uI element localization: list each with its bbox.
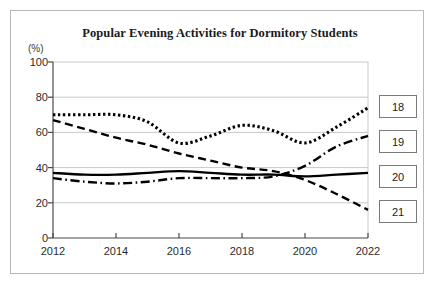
legend-item-18[interactable]: 18	[379, 95, 417, 118]
legend-label: 21	[392, 206, 404, 218]
legend-label: 20	[392, 171, 404, 183]
legend-item-21[interactable]: 21	[379, 200, 417, 223]
legend-label: 19	[392, 136, 404, 148]
plot-background	[53, 62, 368, 238]
plot-area	[0, 0, 442, 291]
legend-item-20[interactable]: 20	[379, 165, 417, 188]
y-axis-ticks	[48, 62, 53, 238]
chart-figure: Popular Evening Activities for Dormitory…	[0, 0, 442, 291]
legend-label: 18	[392, 101, 404, 113]
legend-item-19[interactable]: 19	[379, 130, 417, 153]
